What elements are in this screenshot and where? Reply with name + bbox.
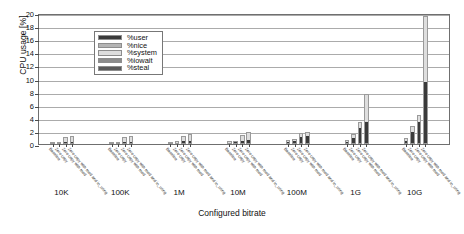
x-axis-subcategory-labels: BaselineZero copyZero copy with modZero …: [38, 146, 450, 186]
plot-area: 02468101214161820 %user%nice%system%iowa…: [38, 14, 450, 145]
legend-swatch: [98, 58, 122, 63]
y-tick-label: 2: [30, 129, 34, 137]
y-tick-label: 0: [30, 142, 34, 150]
legend-swatch: [98, 50, 122, 55]
bar-segment-user: [417, 122, 422, 144]
bar: [364, 94, 369, 144]
x-axis-title: Configured bitrate: [0, 208, 464, 218]
legend-swatch: [98, 66, 122, 71]
y-tick-label: 18: [26, 24, 34, 32]
category-label: 10K: [54, 188, 68, 197]
y-tick-label: 10: [26, 77, 34, 85]
legend-swatch: [98, 35, 122, 40]
bar-segment-user: [423, 82, 428, 144]
y-tick-label: 12: [26, 64, 34, 72]
category-label: 1M: [174, 188, 185, 197]
y-tick-label: 20: [26, 11, 34, 19]
bar-segment-user: [364, 122, 369, 144]
bar-segment-system: [364, 94, 369, 122]
category-label: 10G: [407, 188, 422, 197]
y-tick-label: 14: [26, 51, 34, 59]
y-tick-label: 8: [30, 90, 34, 98]
bar: [246, 132, 251, 144]
category-label: 10M: [230, 188, 246, 197]
bar: [410, 126, 415, 144]
bar: [423, 16, 428, 144]
bar: [63, 137, 68, 144]
bar: [129, 136, 134, 144]
y-tick-label: 6: [30, 103, 34, 111]
bar-segment-user: [358, 128, 363, 144]
category-label: 100K: [111, 188, 130, 197]
bar: [188, 134, 193, 144]
x-axis-category-labels: 10K100K1M10M100M1G10G: [38, 188, 450, 202]
bar: [358, 122, 363, 144]
bar-segment-user: [410, 132, 415, 144]
bar: [299, 133, 304, 144]
bar-segment-user: [299, 137, 304, 144]
legend-label: %steal: [127, 64, 149, 71]
bar-segment-system: [188, 134, 193, 141]
bar: [351, 134, 356, 144]
legend-item: %steal: [98, 64, 157, 72]
category-label: 1G: [350, 188, 361, 197]
bar: [417, 115, 422, 144]
category-label: 100M: [287, 188, 307, 197]
y-tick-label: 4: [30, 116, 34, 124]
legend: %user%nice%system%iowait%steal: [94, 31, 163, 75]
bar-segment-system: [417, 115, 422, 122]
bar: [70, 136, 75, 144]
bar: [181, 136, 186, 144]
bar-segment-user: [305, 136, 310, 144]
bar: [305, 132, 310, 144]
cpu-usage-chart: CPU usage [%] 02468101214161820 %user%ni…: [0, 0, 464, 234]
legend-swatch: [98, 43, 122, 48]
bar: [240, 135, 245, 144]
bar-segment-system: [246, 132, 251, 140]
bar: [122, 137, 127, 144]
bar-segment-system: [423, 16, 428, 82]
y-tick-label: 16: [26, 37, 34, 45]
